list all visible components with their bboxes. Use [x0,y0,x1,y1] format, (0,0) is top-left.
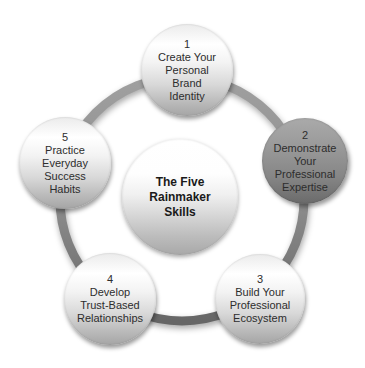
center-hub-label: The Five Rainmaker Skills [149,175,210,220]
skill-node-5-label: Practice Everyday Success Habits [42,144,88,196]
center-hub: The Five Rainmaker Skills [122,139,238,255]
skill-node-4-trust-relationships: 4 Develop Trust-Based Relationships [64,253,156,345]
skill-node-5-number: 5 [62,131,68,144]
skill-node-1-label: Create Your Personal Brand Identity [158,51,216,103]
rainmaker-skills-diagram: 1 Create Your Personal Brand Identity 2 … [0,0,365,368]
skill-node-4-number: 4 [107,273,113,286]
skill-node-4-label: Develop Trust-Based Relationships [77,286,143,325]
skill-node-3-number: 3 [257,273,263,286]
skill-node-3-label: Build Your Professional Ecosystem [230,286,291,325]
skill-node-1-number: 1 [184,38,190,51]
skill-node-3-professional-ecosystem: 3 Build Your Professional Ecosystem [215,254,305,344]
skill-node-2-professional-expertise: 2 Demonstrate Your Professional Expertis… [262,118,348,204]
skill-node-5-success-habits: 5 Practice Everyday Success Habits [19,117,111,209]
skill-node-1-personal-brand: 1 Create Your Personal Brand Identity [141,24,233,116]
skill-node-2-label: Demonstrate Your Professional Expertise [274,142,337,194]
skill-node-2-number: 2 [302,129,308,142]
